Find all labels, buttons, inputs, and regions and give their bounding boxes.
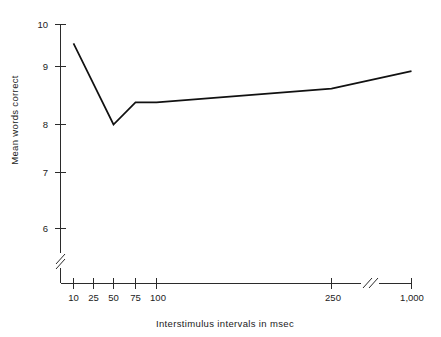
x-tick-label-1000: 1,000	[400, 292, 424, 303]
y-tick-label-7: 7	[43, 167, 48, 178]
line-chart-figure: 10 9 8 7 6 10 25 50 75 100 250 1,000 Int…	[0, 0, 441, 337]
x-axis-break-icon	[363, 278, 378, 288]
chart-canvas: 10 9 8 7 6 10 25 50 75 100 250 1,000 Int…	[0, 0, 441, 337]
x-tick-label-10: 10	[68, 292, 79, 303]
y-tick-label-10: 10	[37, 19, 48, 30]
x-tick-label-250: 250	[325, 292, 341, 303]
x-tick-label-50: 50	[108, 292, 119, 303]
y-axis-title: Mean words correct	[9, 75, 20, 165]
x-tick-label-75: 75	[130, 292, 141, 303]
y-tick-label-8: 8	[43, 119, 48, 130]
x-tick-label-100: 100	[150, 292, 166, 303]
x-axis-title: Interstimulus intervals in msec	[156, 318, 294, 329]
y-axis-break-icon	[56, 254, 65, 269]
x-tick-label-25: 25	[88, 292, 99, 303]
y-tick-label-6: 6	[43, 223, 48, 234]
y-tick-label-9: 9	[43, 61, 48, 72]
data-series-line	[74, 43, 412, 124]
